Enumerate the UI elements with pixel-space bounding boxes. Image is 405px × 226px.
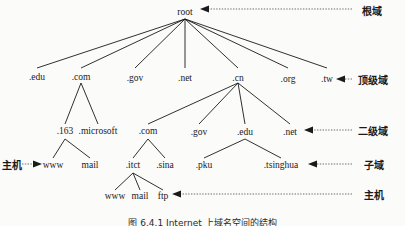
edge-educn-tsinghua <box>245 139 281 158</box>
edge-cn-net <box>238 83 290 124</box>
left-label-host: 主机 <box>2 157 22 172</box>
edge-cn-gov <box>199 83 238 124</box>
node-second-microsoft: .microsoft <box>79 126 118 136</box>
edge-163-www <box>53 139 65 158</box>
arrowhead-left-host <box>33 161 42 168</box>
edge-root-tw <box>185 19 327 68</box>
level-label-tld: 顶级域 <box>358 72 388 87</box>
edge-com-163 <box>65 83 81 124</box>
edge-cn-com <box>148 83 238 124</box>
node-sub-itct: .itct <box>126 160 141 170</box>
figure-caption: 图 6.4.1 Internet 上域名空间的结构 <box>0 216 405 226</box>
node-tld-com: .com <box>72 72 91 82</box>
edge-cn-edu <box>238 83 245 124</box>
edge-educn-pku <box>204 139 245 158</box>
arrowhead-host <box>172 191 181 198</box>
edge-root-edu <box>37 19 185 68</box>
node-tld-edu: .edu <box>29 72 45 82</box>
node-host-mail: mail <box>132 191 149 201</box>
node-sub-www: www <box>43 160 64 170</box>
level-label-host: 主机 <box>364 187 384 202</box>
tree-edges-layer <box>0 0 405 226</box>
arrowhead-tld <box>336 76 345 83</box>
edge-itct-mail <box>133 173 140 190</box>
node-host-ftp: ftp <box>158 191 169 201</box>
node-second-com: .com <box>139 126 158 136</box>
edge-163-mail <box>65 139 90 158</box>
edge-root-com <box>81 19 185 68</box>
node-sub-pku: .pku <box>196 160 213 170</box>
dns-hierarchy-figure: root .edu .com .gov .net .cn .org .tw .1… <box>0 0 405 226</box>
level-label-sub: 子域 <box>364 157 384 172</box>
node-sub-mail: mail <box>82 160 99 170</box>
node-tld-tw: .tw <box>321 74 333 84</box>
edge-root-org <box>185 19 288 68</box>
node-second-gov: .gov <box>191 127 208 137</box>
node-second-edu: .edu <box>237 127 253 137</box>
edge-root-gov <box>135 19 185 68</box>
node-tld-net: .net <box>178 73 192 83</box>
edge-root-cn <box>185 19 238 68</box>
node-tld-cn: .cn <box>232 73 243 83</box>
edge-itct-www <box>115 173 133 190</box>
level-label-root: 根域 <box>362 3 382 18</box>
node-second-net: .net <box>283 127 297 137</box>
edge-comcn-sina <box>148 139 165 158</box>
arrowhead-sub <box>308 161 317 168</box>
node-root: root <box>177 7 192 17</box>
node-tld-gov: .gov <box>127 73 144 83</box>
node-host-www: www <box>105 191 126 201</box>
edge-itct-ftp <box>133 173 163 190</box>
node-tld-org: .org <box>281 74 296 84</box>
node-sub-tsinghua: .tsinghua <box>264 160 299 170</box>
arrowhead-root <box>200 6 209 13</box>
edge-comcn-itct <box>133 139 148 158</box>
node-second-163: .163 <box>57 126 74 136</box>
arrowhead-second <box>304 127 313 134</box>
node-sub-sina: .sina <box>156 160 174 170</box>
edge-com-microsoft <box>81 83 98 124</box>
level-label-second: 二级域 <box>358 123 388 138</box>
